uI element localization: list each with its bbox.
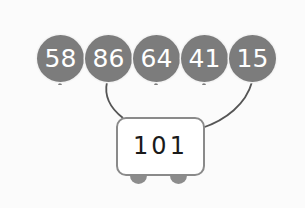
balloon-86: 86 xyxy=(85,35,132,82)
balloon-64: 64 xyxy=(133,35,180,82)
balloon-value: 15 xyxy=(237,44,269,73)
balloon-58: 58 xyxy=(37,35,84,82)
string-86-to-cart xyxy=(106,82,123,118)
balloon-value: 41 xyxy=(189,44,221,73)
balloon-value: 64 xyxy=(141,44,173,73)
balloon-value: 58 xyxy=(45,44,77,73)
balloon-value: 86 xyxy=(93,44,125,73)
cart-total-box: 101 xyxy=(116,117,205,176)
strings-layer xyxy=(0,0,305,208)
balloon-41: 41 xyxy=(181,35,228,82)
balloon-15: 15 xyxy=(229,35,276,82)
balloon-cart-diagram: 58 86 64 41 15 101 xyxy=(0,0,305,208)
cart-total-value: 101 xyxy=(133,132,188,160)
string-15-to-cart xyxy=(202,82,252,128)
